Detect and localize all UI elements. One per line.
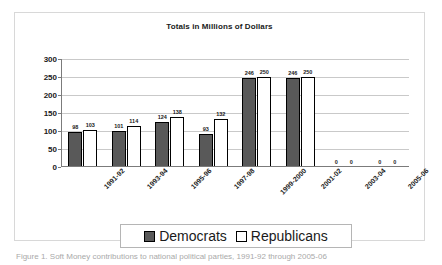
y-axis-tick-label: 150 — [17, 109, 57, 118]
bar-dem[interactable] — [112, 131, 126, 167]
legend-label: Democrats — [159, 229, 227, 243]
bar-value-label: 0 — [385, 159, 405, 165]
y-axis-tick-label: 0 — [17, 163, 57, 172]
x-axis-tick-label: 1991-92 — [102, 167, 125, 190]
bar-rep[interactable] — [257, 77, 271, 167]
bar-dem[interactable] — [68, 132, 82, 167]
y-axis-tick-label: 200 — [17, 91, 57, 100]
x-axis-tick-label: 1999-2000 — [279, 167, 308, 196]
bar-group: 246250 — [242, 59, 271, 167]
x-axis-tick-label: 2003-04 — [363, 167, 386, 190]
bar-value-label: 138 — [167, 109, 187, 115]
x-axis-tick-label: 1995-96 — [189, 167, 212, 190]
x-axis-tick-label: 1997-98 — [233, 167, 256, 190]
x-axis-tick-label: 2005-06 — [407, 167, 430, 190]
bar-group: 246250 — [286, 59, 315, 167]
x-axis-tick-label: 2001-02 — [320, 167, 343, 190]
bar-group: 00 — [373, 59, 402, 167]
bar-group: 124138 — [155, 59, 184, 167]
y-axis-tick-label: 50 — [17, 145, 57, 154]
bar-rep[interactable] — [214, 119, 228, 167]
legend-swatch-icon — [236, 231, 247, 242]
bar-value-label: 114 — [124, 118, 144, 124]
bar-group: 93132 — [199, 59, 228, 167]
chart-figure-frame: Totals in Millions of Dollars 0501001502… — [14, 12, 425, 241]
y-axis-tick-mark — [58, 113, 61, 114]
figure-caption: Figure 1. Soft Money contributions to na… — [16, 252, 426, 261]
y-axis-tick-mark — [58, 131, 61, 132]
legend-label: Republicans — [251, 229, 328, 243]
bar-value-label: 132 — [211, 111, 231, 117]
chart-title: Totals in Millions of Dollars — [15, 22, 424, 31]
bar-value-label: 93 — [196, 126, 216, 132]
bar-dem[interactable] — [199, 134, 213, 167]
bar-value-label: 250 — [254, 69, 274, 75]
bar-dem[interactable] — [286, 78, 300, 167]
bar-group: 98103 — [68, 59, 97, 167]
y-axis-tick-mark — [58, 59, 61, 60]
bar-dem[interactable] — [242, 78, 256, 167]
y-axis: 050100150200250300 — [15, 59, 57, 167]
x-axis-tick-label: 1993-94 — [146, 167, 169, 190]
legend-swatch-icon — [144, 231, 155, 242]
y-axis-line — [61, 59, 62, 167]
bar-dem[interactable] — [155, 122, 169, 167]
bars-layer: 98103101114124138931322462502462500000 — [61, 59, 409, 167]
bar-value-label: 0 — [341, 159, 361, 165]
y-axis-tick-label: 250 — [17, 73, 57, 82]
y-axis-tick-mark — [58, 149, 61, 150]
bar-rep[interactable] — [127, 126, 141, 167]
bar-rep[interactable] — [170, 117, 184, 167]
y-axis-tick-label: 100 — [17, 127, 57, 136]
y-axis-tick-label: 300 — [17, 55, 57, 64]
bar-group: 00 — [329, 59, 358, 167]
legend-entry[interactable]: Republicans — [236, 229, 328, 243]
bar-rep[interactable] — [83, 130, 97, 167]
y-axis-tick-mark — [58, 95, 61, 96]
bar-rep[interactable] — [301, 77, 315, 167]
x-axis-category-labels: 1991-921993-941995-961997-981999-2000200… — [61, 167, 409, 225]
legend-entry[interactable]: Democrats — [144, 229, 227, 243]
plot-area: 98103101114124138931322462502462500000 — [61, 59, 409, 167]
y-axis-tick-mark — [58, 77, 61, 78]
bar-group: 101114 — [112, 59, 141, 167]
bar-value-label: 250 — [298, 69, 318, 75]
bar-value-label: 103 — [80, 122, 100, 128]
chart-legend: DemocratsRepublicans — [120, 224, 352, 248]
